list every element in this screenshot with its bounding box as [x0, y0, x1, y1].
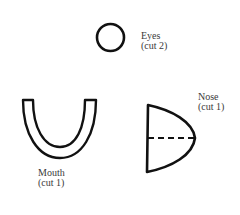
nose-label: Nose (cut 1): [198, 92, 224, 112]
mouth-cut-count: (cut 1): [38, 178, 65, 188]
pattern-diagram: Eyes (cut 2) Mouth (cut 1) Nose (cut 1): [0, 0, 240, 215]
mouth-piece-u-shape: [23, 100, 96, 158]
nose-cut-count: (cut 1): [198, 102, 224, 112]
eyes-label: Eyes (cut 2): [141, 31, 167, 51]
eyes-cut-count: (cut 2): [141, 41, 167, 51]
mouth-label: Mouth (cut 1): [38, 168, 65, 188]
eye-piece-circle: [97, 24, 124, 51]
